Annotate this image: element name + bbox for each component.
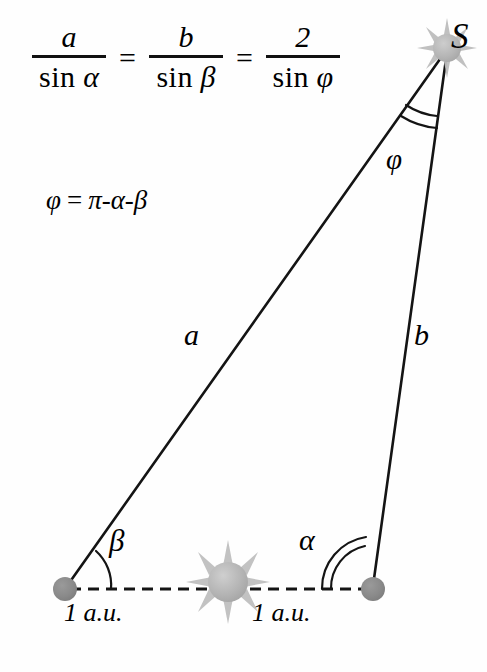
diagram-page: a sin α = b sin β = 2 sin φ φ=π-α-β S φ … [0, 0, 487, 672]
sin-function-name: sin [39, 60, 76, 93]
sin-argument: β [200, 60, 215, 93]
fraction-bar [32, 55, 106, 58]
phi-identity-lhs: φ [46, 185, 61, 215]
fraction-numerator: 2 [285, 22, 320, 53]
distance-label-au-left: 1 a.u. [64, 600, 123, 626]
triangle-side-b [373, 52, 447, 586]
sin-argument: α [83, 60, 99, 93]
equals-sign-1: = [119, 43, 136, 73]
fraction-bar [149, 55, 223, 58]
side-label-a: a [184, 320, 199, 350]
equals-sign-2: = [236, 43, 253, 73]
fraction-2-over-sin-phi: 2 sin φ [266, 22, 340, 92]
fraction-b-over-sin-beta: b sin β [149, 22, 223, 92]
phi-identity-rhs: π-α-β [88, 185, 147, 215]
phi-identity-formula: φ=π-α-β [46, 185, 147, 216]
fraction-denominator: sin β [150, 61, 221, 92]
law-of-sines-formula: a sin α = b sin β = 2 sin φ [26, 22, 346, 92]
fraction-numerator: b [168, 22, 203, 53]
distance-label-au-right: 1 a.u. [252, 600, 311, 626]
vertex-label-S: S [451, 19, 469, 54]
fraction-denominator: sin φ [267, 61, 340, 92]
triangle-side-a [67, 52, 445, 586]
angle-label-phi: φ [386, 145, 402, 174]
angle-arc-alpha [322, 537, 366, 589]
sin-function-name: sin [273, 60, 310, 93]
sin-function-name: sin [156, 60, 193, 93]
angle-label-alpha: α [299, 525, 315, 555]
fraction-numerator: a [52, 22, 87, 53]
planet-dot-right [361, 577, 385, 601]
side-label-b: b [414, 320, 429, 350]
sin-argument: φ [317, 60, 334, 93]
fraction-a-over-sin-alpha: a sin α [32, 22, 106, 92]
angle-label-beta: β [109, 525, 124, 556]
equals-sign-3: = [67, 185, 82, 215]
fraction-bar [266, 55, 340, 58]
fraction-denominator: sin α [33, 61, 105, 92]
